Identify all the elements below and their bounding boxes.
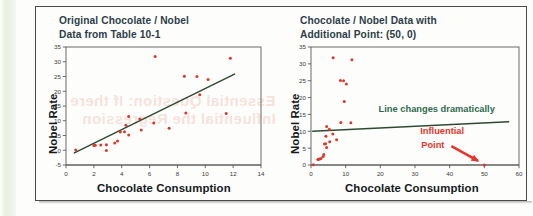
- chart-panel-original: Original Chocolate / Nobel Data from Tab…: [35, 6, 281, 201]
- data-point: [331, 132, 334, 135]
- x-tick-label: 12: [230, 170, 237, 177]
- data-point: [332, 56, 335, 59]
- x-tick-label: 0: [64, 170, 68, 177]
- regression-line: [74, 74, 234, 153]
- data-point: [324, 135, 327, 138]
- y-tick-label: 35: [299, 43, 306, 50]
- y-tick-label: 30: [299, 60, 306, 67]
- scatter-plot-influential: 051015202530350102030405060Line changes …: [281, 6, 527, 201]
- data-point: [195, 75, 198, 78]
- data-point: [350, 58, 353, 61]
- annotation-influential-point-line2: Point: [421, 140, 444, 150]
- x-tick-label: 10: [202, 170, 209, 177]
- data-point: [116, 140, 119, 143]
- x-tick-label: 4: [120, 170, 124, 177]
- data-point: [229, 57, 232, 60]
- y-tick-label: 25: [299, 77, 306, 84]
- data-point: [124, 124, 127, 127]
- data-point: [152, 122, 155, 125]
- data-point: [123, 130, 126, 133]
- data-point: [74, 148, 77, 151]
- data-point: [343, 100, 346, 103]
- data-point: [349, 121, 352, 124]
- data-point: [138, 117, 141, 120]
- data-point: [127, 115, 130, 118]
- y-tick-label: 30: [54, 58, 61, 65]
- y-tick-label: 0: [303, 161, 307, 168]
- data-point: [335, 138, 338, 141]
- data-point: [342, 79, 345, 82]
- data-point: [99, 143, 102, 146]
- data-point: [94, 144, 97, 147]
- data-point: [113, 141, 116, 144]
- data-point: [322, 153, 325, 156]
- x-tick-label: 60: [516, 170, 523, 177]
- x-tick-label: 2: [92, 170, 96, 177]
- y-tick-label: -5: [55, 161, 61, 168]
- figure-frame-shadow: [39, 201, 532, 204]
- data-point: [312, 163, 315, 166]
- data-point: [339, 79, 342, 82]
- x-tick-label: 0: [309, 170, 313, 177]
- data-point: [225, 112, 228, 115]
- data-point: [324, 142, 327, 145]
- y-axis-label-influential: Nobel Rate: [289, 94, 301, 155]
- annotation-influential-point-line1: Influential: [420, 126, 464, 136]
- x-tick-label: 8: [176, 170, 180, 177]
- data-point: [328, 128, 331, 131]
- x-tick-label: 6: [148, 170, 152, 177]
- data-point: [105, 143, 108, 146]
- y-axis-label-original: Nobel Rate: [47, 94, 59, 155]
- data-point: [325, 146, 328, 149]
- x-tick-label: 40: [446, 170, 453, 177]
- data-point: [154, 55, 157, 58]
- data-point: [339, 121, 342, 124]
- data-point: [140, 128, 143, 131]
- y-tick-label: 35: [54, 43, 61, 50]
- y-tick-label: 5: [303, 145, 307, 152]
- data-point: [183, 75, 186, 78]
- x-tick-label: 50: [481, 170, 488, 177]
- data-point: [325, 125, 328, 128]
- data-point: [127, 133, 130, 136]
- data-point: [119, 130, 122, 133]
- x-tick-label: 10: [342, 170, 349, 177]
- x-tick-label: 20: [377, 170, 384, 177]
- x-tick-label: 30: [412, 170, 419, 177]
- scanned-page: Essential Question: If there Influential…: [0, 0, 533, 216]
- y-tick-label: 25: [54, 73, 61, 80]
- data-point: [184, 112, 187, 115]
- data-point: [345, 83, 348, 86]
- data-point: [105, 149, 108, 152]
- chart-panel-influential: Chocolate / Nobel Data with Additional P…: [281, 6, 527, 201]
- scatter-plot-original: -50510152025303502468101214: [35, 6, 281, 201]
- x-axis-label-influential: Chocolate Consumption: [345, 182, 479, 194]
- page-edge-strip: [0, 0, 16, 216]
- influential-data-point: [483, 164, 486, 167]
- data-point: [328, 140, 331, 143]
- data-point: [207, 78, 210, 81]
- x-axis-label-original: Chocolate Consumption: [97, 182, 231, 194]
- x-tick-label: 14: [258, 170, 265, 177]
- annotation-line-changes-dramatically: Line changes dramatically: [379, 104, 496, 114]
- data-point: [168, 127, 171, 130]
- data-point: [198, 93, 201, 96]
